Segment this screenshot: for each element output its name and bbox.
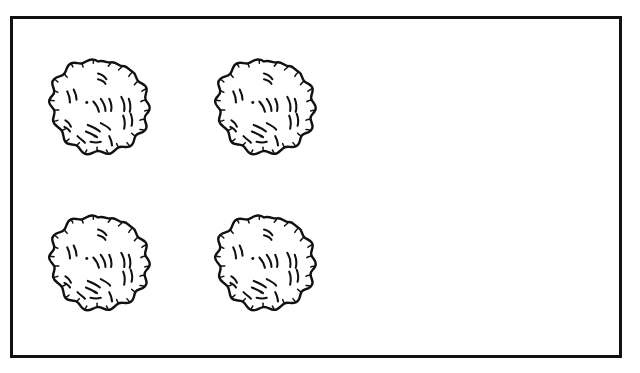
fluffy-object-1 bbox=[42, 54, 154, 166]
fluffy-object-4 bbox=[208, 210, 320, 322]
fluffy-object-3 bbox=[42, 210, 154, 322]
illustration-canvas bbox=[0, 0, 640, 373]
fluffy-object-2 bbox=[208, 54, 320, 166]
